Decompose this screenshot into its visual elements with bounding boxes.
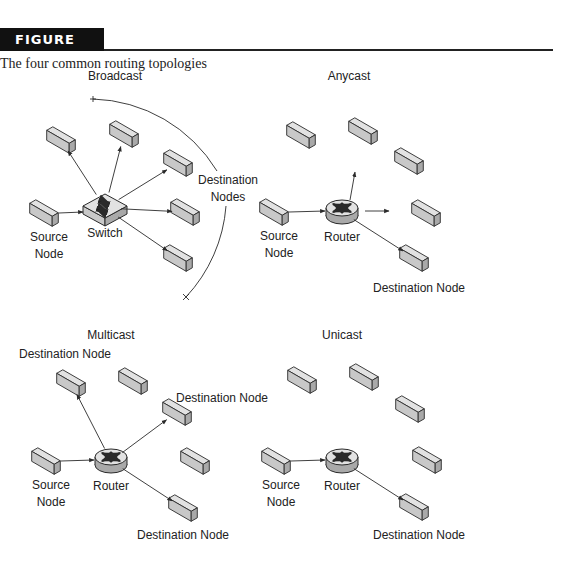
switch-label: Switch bbox=[87, 226, 122, 240]
panel-multicast: MulticastSourceNodeRouterDestination Nod… bbox=[19, 328, 268, 542]
destination-label: Destination Node bbox=[176, 391, 268, 405]
source-node-label: Node bbox=[267, 495, 296, 509]
router-label: Router bbox=[324, 479, 360, 493]
destination-node bbox=[164, 245, 193, 271]
destination-label: Destination Node bbox=[373, 281, 465, 295]
panel-title-multicast: Multicast bbox=[87, 328, 135, 342]
route-arrow bbox=[121, 209, 172, 212]
destination-label: Destination Node bbox=[373, 528, 465, 542]
network-node bbox=[395, 148, 424, 175]
destination-label: Destination bbox=[198, 173, 258, 187]
destination-node bbox=[400, 245, 429, 271]
route-arrow bbox=[77, 395, 105, 449]
source-node-label: Node bbox=[35, 247, 64, 261]
router-icon bbox=[95, 449, 127, 473]
network-node bbox=[413, 447, 442, 474]
route-arrow bbox=[354, 469, 403, 500]
route-arrow bbox=[61, 460, 94, 461]
route-arrow bbox=[354, 220, 403, 251]
router-label: Router bbox=[93, 479, 129, 493]
arc-start-mark bbox=[90, 96, 96, 102]
destination-node bbox=[171, 199, 200, 226]
network-node bbox=[350, 364, 379, 391]
route-arrow bbox=[109, 147, 121, 193]
routing-topologies-diagram: BroadcastSourceNodeSwitchDestinationNode… bbox=[0, 0, 587, 578]
network-node bbox=[119, 368, 148, 395]
source-node bbox=[32, 448, 61, 475]
arc-end-mark bbox=[183, 294, 189, 300]
panel-anycast: AnycastSourceNodeRouterDestination Node bbox=[260, 69, 466, 295]
destination-node bbox=[169, 495, 198, 522]
network-node bbox=[412, 200, 441, 227]
destination-node bbox=[57, 370, 86, 397]
router-label: Router bbox=[324, 230, 360, 244]
route-arrow bbox=[119, 170, 167, 200]
destination-label: Nodes bbox=[211, 190, 246, 204]
network-node bbox=[288, 367, 317, 394]
route-arrow bbox=[291, 460, 325, 461]
router-icon bbox=[326, 200, 358, 224]
source-node-label: Node bbox=[265, 246, 294, 260]
route-arrow bbox=[68, 151, 96, 195]
source-node bbox=[30, 200, 59, 227]
network-node bbox=[181, 448, 210, 475]
source-node-label: Source bbox=[32, 478, 70, 492]
network-node bbox=[287, 122, 316, 149]
router-icon bbox=[326, 449, 358, 473]
network-node bbox=[396, 396, 425, 423]
source-node-label: Source bbox=[262, 478, 300, 492]
panel-title-anycast: Anycast bbox=[328, 69, 371, 83]
network-node bbox=[349, 118, 378, 145]
route-arrow bbox=[350, 172, 355, 200]
destination-node bbox=[110, 121, 139, 148]
panel-unicast: UnicastSourceNodeRouterDestination Node bbox=[262, 328, 466, 542]
panel-broadcast: BroadcastSourceNodeSwitchDestinationNode… bbox=[30, 69, 258, 300]
source-node-label: Node bbox=[37, 495, 66, 509]
destination-label: Destination Node bbox=[19, 347, 111, 361]
panel-title-unicast: Unicast bbox=[322, 328, 363, 342]
route-arrow bbox=[118, 217, 167, 251]
destination-node bbox=[400, 494, 429, 521]
route-arrow bbox=[59, 212, 83, 213]
source-node bbox=[260, 199, 289, 226]
destination-node bbox=[47, 127, 76, 154]
route-arrow bbox=[289, 211, 325, 212]
route-arrow bbox=[122, 420, 166, 453]
destination-label: Destination Node bbox=[137, 528, 229, 542]
source-node bbox=[262, 448, 291, 475]
source-node-label: Source bbox=[30, 230, 68, 244]
destination-node bbox=[164, 150, 193, 177]
route-arrow bbox=[123, 469, 172, 501]
panel-title-broadcast: Broadcast bbox=[88, 69, 143, 83]
source-node-label: Source bbox=[260, 229, 298, 243]
